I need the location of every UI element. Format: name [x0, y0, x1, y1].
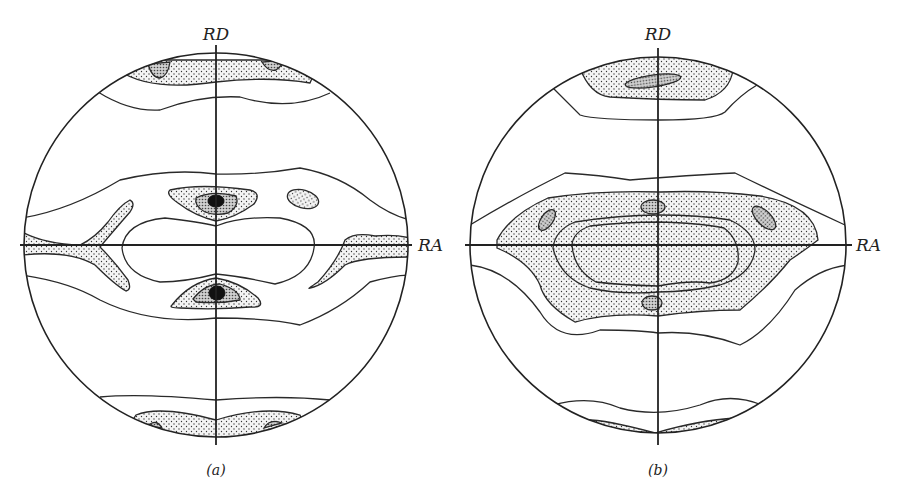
pole-figure-b: RD RA (b): [465, 24, 881, 478]
contour-right-island: [285, 186, 321, 212]
ra-label-b: RA: [855, 235, 881, 255]
pole-figures: RD RA (a): [0, 0, 902, 501]
caption-b: (b): [648, 462, 668, 478]
pole-figure-a: RD RA (a): [20, 24, 443, 478]
rd-label-b: RD: [644, 24, 672, 44]
rd-label-a: RD: [202, 24, 230, 44]
contour-lower-peak-max: [209, 286, 225, 300]
contour-top-line: [98, 92, 330, 110]
contour-bottom-line: [100, 396, 330, 400]
contour-central-hollow: [122, 218, 314, 284]
ra-label-a: RA: [417, 235, 443, 255]
caption-a: (a): [206, 462, 225, 478]
contour-right-arms: [309, 235, 410, 289]
contour-center-island: [641, 200, 665, 214]
contour-lower-island: [642, 296, 662, 310]
